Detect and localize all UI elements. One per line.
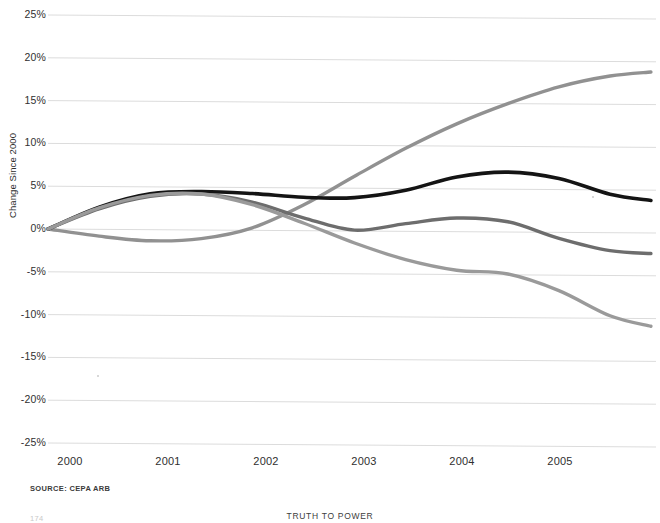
chart-figure: Change Since 2000 25%20%15%10%5%0%-5%-10… [0,0,660,523]
gridline [48,143,656,147]
page-speck [97,375,99,377]
gridline [48,101,656,105]
page-speck [592,196,594,198]
x-tick-label: 2003 [334,455,394,467]
gridline [48,15,656,19]
x-tick-label: 2005 [530,455,590,467]
x-tick-label: 2000 [40,455,100,467]
gridline [48,315,656,319]
series-line [48,193,651,326]
footer-page-number: 174 [30,514,43,523]
series-line [48,72,651,241]
plot-area [0,0,660,470]
series-line [48,194,651,254]
gridline [48,58,656,62]
series-lines [48,72,651,326]
gridline [48,400,656,404]
x-tick-label: 2004 [432,455,492,467]
gridline [48,357,656,361]
x-tick-label: 2002 [236,455,296,467]
x-tick-label: 2001 [138,455,198,467]
gridline [48,272,656,276]
footer-running-head: TRUTH TO POWER [0,511,660,521]
source-note: SOURCE: CEPA ARB [30,484,110,493]
gridline [48,443,656,447]
gridline [48,186,656,190]
